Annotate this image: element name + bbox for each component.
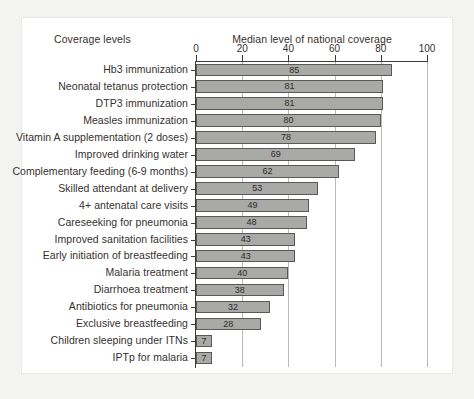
bar-value-label: 48: [246, 217, 256, 227]
x-tick: [427, 55, 428, 61]
bar-row[interactable]: Neonatal tetanus protection81: [196, 79, 427, 96]
bar-value-label: 80: [283, 115, 293, 125]
category-label: Complementary feeding (6-9 months): [12, 165, 188, 177]
category-label: Skilled attendant at delivery: [58, 182, 188, 194]
bar-row[interactable]: Early initiation of breastfeeding43: [196, 248, 427, 265]
bar-row[interactable]: Children sleeping under ITNs7: [196, 333, 427, 350]
bar-row[interactable]: Careseeking for pneumonia48: [196, 215, 427, 232]
x-tick: [381, 55, 382, 61]
category-label: IPTp for malaria: [113, 351, 189, 363]
category-label: Improved drinking water: [75, 148, 188, 160]
bar-row[interactable]: Improved drinking water69: [196, 147, 427, 164]
category-label: Hb3 immunization: [103, 63, 188, 75]
x-tick-label: 100: [419, 43, 436, 54]
category-label: 4+ antenatal care visits: [79, 199, 188, 211]
bar-value-label: 85: [289, 65, 299, 75]
bar-value-label: 49: [248, 200, 258, 210]
category-label: DTP3 immunization: [96, 97, 188, 109]
bar-row[interactable]: Malaria treatment40: [196, 265, 427, 282]
bar-value-label: 62: [263, 166, 273, 176]
bar-value-label: 43: [241, 251, 251, 261]
category-label: Improved sanitation facilities: [55, 233, 188, 245]
category-label: Measles immunization: [83, 114, 188, 126]
x-tick-label: 80: [375, 43, 386, 54]
bar-row[interactable]: Measles immunization80: [196, 113, 427, 130]
category-label: Malaria treatment: [105, 266, 188, 278]
x-tick-label: 20: [237, 43, 248, 54]
x-tick: [288, 55, 289, 61]
x-tick: [335, 55, 336, 61]
gridline: [427, 62, 428, 367]
bar-value-label: 7: [202, 353, 207, 363]
bar-row[interactable]: DTP3 immunization81: [196, 96, 427, 113]
bar-value-label: 78: [281, 132, 291, 142]
figure-container: Coverage levels Median level of national…: [0, 0, 474, 399]
bar-value-label: 40: [237, 268, 247, 278]
bar-value-label: 28: [223, 319, 233, 329]
bar-row[interactable]: Complementary feeding (6-9 months)62: [196, 164, 427, 181]
category-label: Neonatal tetanus protection: [58, 80, 188, 92]
category-label: Exclusive breastfeeding: [76, 317, 188, 329]
x-tick: [196, 55, 197, 61]
bar-row[interactable]: Exclusive breastfeeding28: [196, 316, 427, 333]
bar-value-label: 81: [285, 98, 295, 108]
x-tick-label: 60: [329, 43, 340, 54]
bar-row[interactable]: Diarrhoea treatment38: [196, 282, 427, 299]
x-tick: [242, 55, 243, 61]
x-tick-label: 0: [193, 43, 199, 54]
x-tick-label: 40: [283, 43, 294, 54]
bar-row[interactable]: Antibiotics for pneumonia32: [196, 299, 427, 316]
x-axis-title: Median level of national coverage: [196, 33, 428, 45]
category-label: Antibiotics for pneumonia: [69, 300, 188, 312]
bar-row[interactable]: Hb3 immunization85: [196, 62, 427, 79]
bar-value-label: 32: [228, 302, 238, 312]
category-label: Children sleeping under ITNs: [51, 334, 188, 346]
bar-value-label: 53: [252, 183, 262, 193]
bar-value-label: 81: [285, 81, 295, 91]
category-label: Diarrhoea treatment: [94, 283, 188, 295]
plot-area: Hb3 immunization85Neonatal tetanus prote…: [196, 62, 427, 367]
bar-row[interactable]: Vitamin A supplementation (2 doses)78: [196, 130, 427, 147]
category-label: Careseeking for pneumonia: [58, 216, 188, 228]
bar-row[interactable]: 4+ antenatal care visits49: [196, 198, 427, 215]
bar-value-label: 69: [271, 149, 281, 159]
category-label: Early initiation of breastfeeding: [43, 249, 188, 261]
coverage-levels-label: Coverage levels: [54, 33, 131, 45]
bar-row[interactable]: Improved sanitation facilities43: [196, 232, 427, 249]
bar-row[interactable]: Skilled attendant at delivery53: [196, 181, 427, 198]
category-label: Vitamin A supplementation (2 doses): [16, 131, 188, 143]
bar-row[interactable]: IPTp for malaria7: [196, 350, 427, 367]
bar-value-label: 43: [241, 234, 251, 244]
bar-value-label: 7: [202, 336, 207, 346]
bar-value-label: 38: [235, 285, 245, 295]
